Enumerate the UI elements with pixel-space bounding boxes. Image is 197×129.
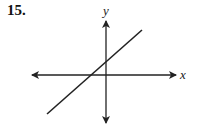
coordinate-plane: x y [0, 0, 197, 129]
y-axis-label: y [101, 3, 109, 18]
x-axis-label: x [179, 67, 186, 82]
graph-line [47, 30, 142, 114]
